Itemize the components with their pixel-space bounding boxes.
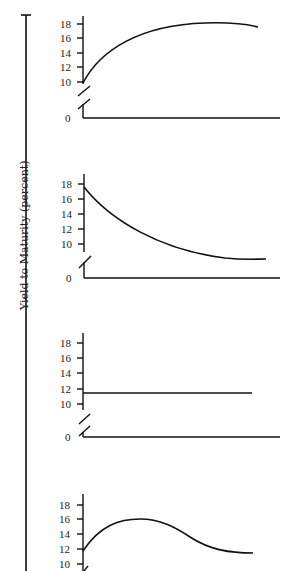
svg-text:12: 12: [60, 61, 71, 73]
svg-text:18: 18: [59, 499, 71, 511]
svg-text:0: 0: [65, 431, 71, 443]
svg-text:12: 12: [60, 383, 71, 395]
panel-3-flat: [77, 333, 280, 437]
svg-text:10: 10: [61, 238, 73, 250]
svg-text:14: 14: [60, 47, 72, 59]
svg-text:14: 14: [59, 528, 71, 540]
panel-2-ticks: 18 16 14 12 10 0: [61, 178, 73, 284]
panel-3-ticks: 18 16 14 12 10 0: [60, 337, 72, 443]
svg-text:18: 18: [60, 18, 72, 30]
curve-2: [84, 187, 266, 259]
svg-text:16: 16: [59, 513, 71, 525]
svg-text:14: 14: [61, 208, 73, 220]
panel-4-humped: [77, 494, 253, 571]
svg-text:18: 18: [60, 337, 72, 349]
curve-1: [83, 23, 258, 83]
curve-4: [83, 519, 253, 553]
svg-text:16: 16: [60, 32, 72, 44]
y-axis-label: Yield to Maturity (percent): [18, 161, 31, 311]
svg-text:10: 10: [59, 558, 71, 570]
panel-1-ticks: 18 16 14 12 10 0: [60, 18, 72, 124]
panel-2-downward: [78, 174, 280, 278]
svg-text:10: 10: [60, 398, 72, 410]
svg-text:12: 12: [59, 543, 70, 555]
svg-text:16: 16: [61, 193, 73, 205]
svg-text:0: 0: [66, 272, 72, 284]
svg-text:10: 10: [60, 76, 72, 88]
svg-text:14: 14: [60, 367, 72, 379]
svg-text:0: 0: [65, 112, 71, 124]
svg-text:12: 12: [61, 223, 72, 235]
svg-text:18: 18: [61, 178, 73, 190]
yield-curve-figure: 18 16 14 12 10 0 18 16 14 12 10 0: [0, 0, 293, 571]
svg-text:16: 16: [60, 352, 72, 364]
panel-4-ticks: 18 16 14 12 10: [59, 499, 71, 570]
panel-1-upward: [77, 16, 280, 118]
